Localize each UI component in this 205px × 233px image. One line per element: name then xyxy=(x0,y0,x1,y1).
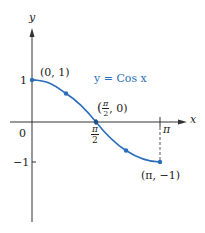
fraction-numerator: π xyxy=(102,100,109,109)
paren-close: , 0) xyxy=(109,102,127,115)
y-tick-label-1: 1 xyxy=(20,75,27,86)
x-axis-arrow-icon xyxy=(178,120,187,125)
point-pi-neg1 xyxy=(158,160,162,164)
x-tick-label-pi-half: π 2 xyxy=(91,125,99,145)
point-pi-4 xyxy=(64,91,68,95)
y-axis-label: y xyxy=(29,12,35,23)
y-tick-label-neg1: −1 xyxy=(13,157,29,168)
annotation-fraction: π2 xyxy=(102,100,109,118)
point-3pi-4 xyxy=(124,148,128,152)
fraction-denominator: 2 xyxy=(92,135,98,145)
point-0-1 xyxy=(30,78,34,82)
annotation-pi-neg1: (π, −1) xyxy=(141,170,180,181)
annotation-0-1: (0, 1) xyxy=(40,67,70,78)
annotation-pi-half-0: (π2, 0) xyxy=(97,100,128,118)
fraction-numerator: π xyxy=(91,125,99,135)
y-axis-arrow-icon xyxy=(30,28,35,37)
function-label: y = Cos x xyxy=(94,73,147,84)
x-axis-label: x xyxy=(190,114,196,125)
fraction-denominator: 2 xyxy=(103,109,108,118)
origin-label: 0 xyxy=(19,128,26,139)
x-tick-label-pi: π xyxy=(163,124,170,135)
